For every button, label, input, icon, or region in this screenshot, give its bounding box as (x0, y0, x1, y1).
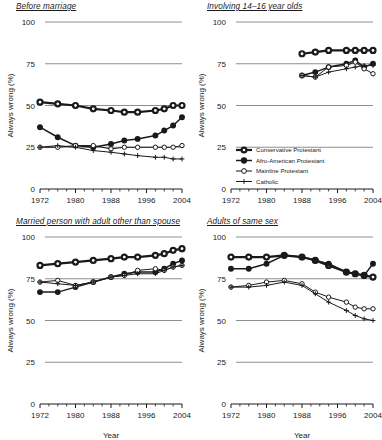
marker-filled-circle (109, 142, 113, 146)
x-tick-label-2004: 2004 (364, 411, 382, 420)
marker-open-circle (180, 143, 184, 147)
x-tick-label-2004: 2004 (364, 196, 382, 205)
marker-open-circle (313, 50, 318, 55)
marker-open-circle (55, 101, 60, 106)
chart-svg-adults-of-same-sex: 025507510019721980198819962004Always wro… (191, 215, 382, 440)
marker-open-circle (326, 295, 330, 299)
legend-item-afro_american_protestant[interactable]: Afro-American Protestant (236, 157, 325, 164)
x-tick-label-2004: 2004 (173, 411, 191, 420)
marker-open-circle (135, 145, 139, 149)
y-tick-label-0: 0 (31, 185, 36, 194)
y-tick-label-50: 50 (217, 317, 226, 326)
x-tick-label-1988: 1988 (102, 411, 120, 420)
marker-open-circle (91, 143, 95, 147)
marker-filled-circle (264, 262, 268, 266)
marker-open-circle (326, 48, 331, 53)
y-tick-label-0: 0 (222, 185, 227, 194)
marker-open-circle (73, 260, 78, 265)
marker-filled-circle (38, 125, 42, 129)
marker-open-circle (229, 255, 234, 260)
marker-open-circle (326, 65, 330, 69)
x-tick-label-1996: 1996 (329, 411, 347, 420)
x-tick-label-2004: 2004 (173, 196, 191, 205)
y-tick-label-0: 0 (222, 400, 227, 409)
marker-filled-circle (56, 135, 60, 139)
x-tick-label-1988: 1988 (102, 196, 120, 205)
marker-open-circle (353, 60, 357, 64)
marker-open-circle (55, 261, 60, 266)
legend-item-mainline_protestant[interactable]: Mainline Protestant (236, 167, 308, 174)
y-tick-label-100: 100 (213, 18, 227, 27)
marker-open-circle (371, 275, 376, 280)
marker-open-circle (180, 103, 185, 108)
chart-panel-adults-of-same-sex: Adults of same sex 025507510019721980198… (191, 215, 382, 435)
marker-open-circle (122, 255, 127, 260)
marker-open-circle (300, 51, 305, 56)
marker-open-circle (38, 263, 43, 268)
x-tick-label-1988: 1988 (293, 196, 311, 205)
chart-panel-before-marriage: Before marriage 025507510019721980198819… (0, 0, 191, 220)
marker-filled-circle (344, 270, 348, 274)
marker-open-circle (162, 145, 166, 149)
marker-filled-circle (122, 138, 126, 142)
y-tick-label-75: 75 (26, 275, 35, 284)
marker-open-circle (171, 145, 175, 149)
y-tick-label-75: 75 (217, 275, 226, 284)
y-tick-label-100: 100 (22, 233, 36, 242)
y-tick-label-25: 25 (217, 358, 226, 367)
marker-open-circle (122, 110, 127, 115)
y-tick-label-100: 100 (213, 233, 227, 242)
marker-open-circle (153, 108, 158, 113)
marker-open-circle (38, 100, 43, 105)
marker-filled-circle (313, 70, 317, 74)
chart-svg-before-marriage: 025507510019721980198819962004Always wro… (0, 0, 191, 220)
y-tick-label-75: 75 (26, 60, 35, 69)
y-tick-label-50: 50 (26, 317, 35, 326)
y-axis-label: Always wrong (%) (6, 288, 15, 352)
legend-label: Afro-American Protestant (256, 157, 325, 164)
x-tick-label-1972: 1972 (222, 411, 240, 420)
marker-open-circle (153, 253, 158, 258)
marker-open-circle (180, 246, 185, 251)
marker-open-circle (171, 248, 176, 253)
chart-svg-involving-14-16-year-olds: 025507510019721980198819962004Always wro… (191, 0, 382, 220)
marker-open-circle (246, 255, 251, 260)
marker-open-circle (171, 103, 176, 108)
legend-marker-open-circle (242, 169, 247, 174)
x-tick-label-1996: 1996 (138, 411, 156, 420)
legend-label: Catholic (256, 178, 278, 185)
marker-open-circle (109, 108, 114, 113)
y-tick-label-0: 0 (31, 400, 36, 409)
x-tick-label-1980: 1980 (67, 196, 85, 205)
marker-filled-circle (282, 253, 286, 257)
y-axis-label: Always wrong (%) (6, 73, 15, 137)
y-tick-label-25: 25 (26, 143, 35, 152)
legend-item-catholic[interactable]: Catholic (236, 178, 278, 185)
marker-open-circle (135, 110, 140, 115)
marker-open-circle (362, 307, 366, 311)
x-tick-label-1980: 1980 (258, 411, 276, 420)
series-line (231, 282, 373, 320)
chart-panel-married-person-with-adult-other-than-spouse: Married person with adult other than spo… (0, 215, 191, 435)
marker-filled-circle (362, 273, 366, 277)
x-tick-label-1972: 1972 (31, 196, 49, 205)
marker-open-circle (122, 145, 126, 149)
legend-marker-open-circle (242, 148, 247, 153)
y-tick-label-50: 50 (26, 102, 35, 111)
marker-filled-circle (313, 258, 317, 262)
marker-open-circle (109, 256, 114, 261)
marker-open-circle (362, 48, 367, 53)
marker-open-circle (353, 48, 358, 53)
x-tick-label-1996: 1996 (329, 196, 347, 205)
marker-filled-circle (153, 133, 157, 137)
marker-filled-circle (371, 262, 375, 266)
marker-filled-circle (300, 255, 304, 259)
y-tick-label-25: 25 (217, 143, 226, 152)
marker-open-circle (153, 267, 157, 271)
y-tick-label-75: 75 (217, 60, 226, 69)
y-tick-label-50: 50 (217, 102, 226, 111)
marker-filled-circle (247, 267, 251, 271)
marker-filled-circle (135, 137, 139, 141)
x-tick-label-1988: 1988 (293, 411, 311, 420)
marker-open-circle (353, 305, 357, 309)
